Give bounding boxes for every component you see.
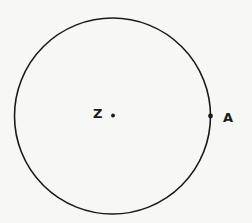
point-a-label: A — [223, 110, 233, 125]
center-point-z — [111, 114, 115, 118]
center-label-z: Z — [93, 106, 102, 121]
diagram-canvas: Z A — [0, 0, 252, 223]
point-a — [208, 114, 213, 119]
